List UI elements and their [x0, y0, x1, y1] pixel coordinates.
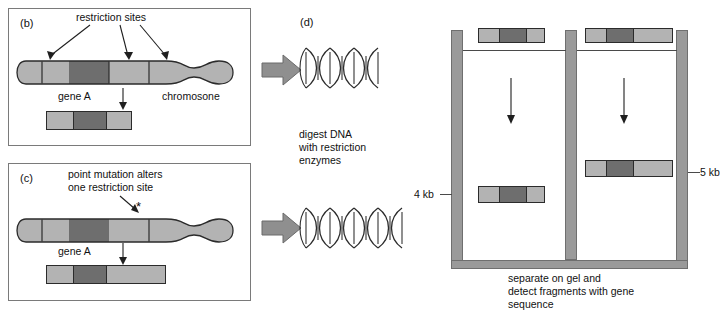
band-segment-light-right	[633, 29, 672, 42]
fragment-segment-dark	[73, 112, 106, 129]
gel-right-result-band	[585, 160, 673, 177]
panel-b-fragment	[46, 111, 132, 130]
band-segment-light-right	[633, 161, 672, 176]
block-arrow-top	[262, 54, 302, 86]
fragment-segment-light-left	[47, 112, 73, 129]
fragment-segment-light-right	[106, 112, 131, 129]
band-segment-light-left	[479, 187, 499, 202]
band-segment-light-right	[526, 187, 544, 202]
panel-b-gene-label: gene A	[58, 90, 91, 103]
panel-c-callout-line2: one restriction site	[68, 181, 153, 194]
panel-b-down-arrow	[116, 88, 130, 110]
band-segment-dark	[499, 29, 526, 42]
fragment-segment-light-right	[106, 266, 165, 283]
panel-c-down-arrow	[116, 243, 130, 265]
panel-c-mutation-marker: *	[136, 203, 141, 211]
panel-b-chromosome	[16, 58, 236, 88]
gel-right-migration-arrow	[618, 78, 630, 124]
gel-surface-line-right	[577, 50, 677, 51]
band-segment-dark	[606, 161, 633, 176]
gel-left-well-band	[478, 28, 545, 43]
figure-canvas: (b) restriction sites	[0, 0, 720, 311]
fragment-segment-light-left	[47, 266, 73, 283]
band-segment-light-right	[526, 29, 544, 42]
band-segment-light-left	[586, 161, 606, 176]
fragment-segment-dark	[73, 266, 106, 283]
gel-caption-line3: sequence	[508, 298, 554, 311]
gel-base	[451, 260, 688, 269]
digest-step-line1: digest DNA	[299, 128, 352, 141]
gel-right-size-leader	[688, 172, 700, 173]
panel-b-chromosome-label: chromosone	[162, 90, 220, 103]
band-segment-light-left	[479, 29, 499, 42]
gel-caption-line1: separate on gel and	[508, 272, 601, 285]
band-segment-dark	[499, 187, 526, 202]
panel-c-label: (c)	[20, 172, 33, 184]
gel-left-size-label: 4 kb	[414, 188, 434, 201]
gel-wall-right	[676, 30, 688, 268]
panel-c-fragment	[46, 265, 166, 284]
gel-surface-line-left	[463, 50, 566, 51]
digest-step-line3: enzymes	[299, 154, 341, 167]
panel-c-chromosome	[16, 216, 236, 246]
block-arrow-bottom	[262, 212, 302, 244]
panel-c-gene-label: gene A	[58, 245, 91, 258]
gel-right-well-band	[585, 28, 673, 43]
gel-wall-middle	[565, 30, 577, 260]
gel-right-size-label: 5 kb	[700, 166, 720, 179]
digest-step-line2: with restriction	[299, 141, 366, 154]
band-segment-dark	[606, 29, 633, 42]
panel-c-callout-arrow	[118, 194, 148, 216]
gel-left-migration-arrow	[505, 78, 517, 124]
panel-d-label: (d)	[300, 16, 313, 28]
dna-helix-top	[300, 46, 382, 90]
dna-helix-bottom	[300, 206, 406, 250]
panel-c-callout-line1: point mutation alters	[68, 168, 163, 181]
gel-wall-left	[451, 30, 463, 268]
gel-left-result-band	[478, 186, 545, 203]
band-segment-light-left	[586, 29, 606, 42]
gel-left-size-leader	[440, 194, 452, 195]
gel-caption-line2: detect fragments with gene	[508, 285, 634, 298]
